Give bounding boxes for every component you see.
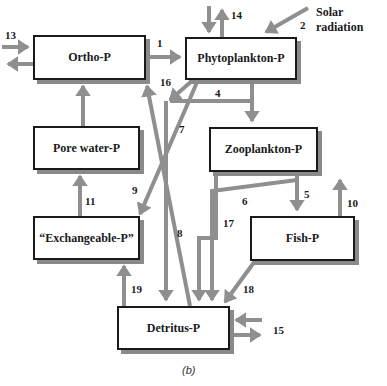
box-label: Detritus-P xyxy=(147,321,200,336)
box-label: Pore water-P xyxy=(53,141,120,156)
box-label: “Exchangeable-P” xyxy=(39,231,134,246)
box-label: Phytoplankton-P xyxy=(197,51,284,66)
flow-label-9: 9 xyxy=(132,184,138,196)
flow-label-19: 19 xyxy=(131,283,142,295)
flow-18 xyxy=(225,261,255,302)
flow-label-8: 8 xyxy=(177,227,183,239)
box-label: Ortho-P xyxy=(68,50,111,65)
flow-label-10: 10 xyxy=(347,197,358,209)
box-label: Zooplankton-P xyxy=(225,142,302,157)
box-phytoplankton-p: Phytoplankton-P xyxy=(185,37,297,80)
flow-label-17: 17 xyxy=(223,217,234,229)
flow-label-7: 7 xyxy=(179,123,185,135)
flow-label-1: 1 xyxy=(157,37,163,49)
flow-label-2: 2 xyxy=(300,19,306,31)
flow-label-18: 18 xyxy=(243,283,254,295)
figure-caption: (b) xyxy=(182,364,195,376)
box-fish-p: Fish-P xyxy=(250,216,355,261)
flow-label-14: 14 xyxy=(231,9,242,21)
box-ortho-p: Ortho-P xyxy=(33,35,146,80)
box-zooplankton-p: Zooplankton-P xyxy=(209,127,318,172)
flow-label-6: 6 xyxy=(242,195,248,207)
flow-label-5: 5 xyxy=(304,188,310,200)
box-pore-water-p: Pore water-P xyxy=(33,126,140,170)
flow-label-4: 4 xyxy=(215,87,221,99)
flow-label-11: 11 xyxy=(85,195,95,207)
solar-radiation-label: Solar radiation xyxy=(316,5,387,35)
flow-8 xyxy=(147,86,190,306)
box-detritus-p: Detritus-P xyxy=(117,306,230,350)
box-label: Fish-P xyxy=(286,231,319,246)
flow-label-15: 15 xyxy=(273,324,284,336)
box-exchangeable-p: “Exchangeable-P” xyxy=(33,216,140,260)
flow-label-16: 16 xyxy=(160,76,171,88)
flow-label-13: 13 xyxy=(5,29,16,41)
